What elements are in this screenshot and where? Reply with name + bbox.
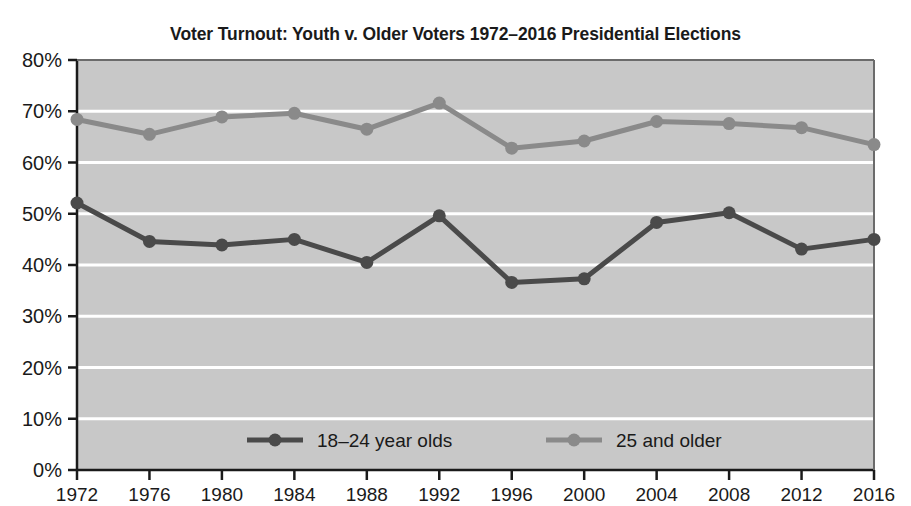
x-tick-label: 2008 [708,484,750,505]
data-point [795,243,808,256]
x-tick-label: 1972 [56,484,98,505]
x-tick-label: 2000 [563,484,605,505]
y-tick-label: 0% [33,459,62,481]
data-point [433,97,446,110]
data-point [360,123,373,136]
y-tick-label: 50% [22,203,62,225]
data-point [578,134,591,147]
y-tick-label: 40% [22,254,62,276]
legend-label-1: 18–24 year olds [317,430,452,451]
data-point [868,233,881,246]
data-point [71,113,84,126]
y-tick-label: 70% [22,100,62,122]
x-tick-label: 2016 [853,484,895,505]
data-point [505,142,518,155]
data-point [143,235,156,248]
chart-plot-area: 0%10%20%30%40%50%60%70%80% 1972197619801… [0,0,911,506]
data-point [868,138,881,151]
data-point [723,117,736,130]
data-point [433,209,446,222]
data-point [795,121,808,134]
data-point [288,233,301,246]
y-tick-label: 20% [22,357,62,379]
y-tick-label: 60% [22,152,62,174]
x-tick-label: 1984 [273,484,316,505]
legend-marker-2 [568,434,581,447]
data-point [723,206,736,219]
data-point [215,110,228,123]
x-tick-label: 2004 [635,484,678,505]
data-point [578,272,591,285]
voter-turnout-chart: Voter Turnout: Youth v. Older Voters 197… [0,0,911,506]
data-point [71,196,84,209]
data-point [143,128,156,141]
y-tick-label: 80% [22,49,62,71]
data-point [215,239,228,252]
y-axis-ticks: 0%10%20%30%40%50%60%70%80% [22,49,77,481]
data-point [650,216,663,229]
x-tick-label: 1988 [346,484,388,505]
y-tick-label: 30% [22,305,62,327]
x-tick-label: 1980 [201,484,243,505]
x-tick-label: 1996 [491,484,533,505]
x-axis-ticks: 1972197619801984198819921996200020042008… [56,470,895,505]
data-point [650,115,663,128]
data-point [360,256,373,269]
y-tick-label: 10% [22,408,62,430]
x-tick-label: 2012 [780,484,822,505]
legend-marker-1 [269,434,282,447]
legend-label-2: 25 and older [616,430,722,451]
data-point [288,107,301,120]
x-tick-label: 1976 [128,484,170,505]
x-tick-label: 1992 [418,484,460,505]
data-point [505,276,518,289]
